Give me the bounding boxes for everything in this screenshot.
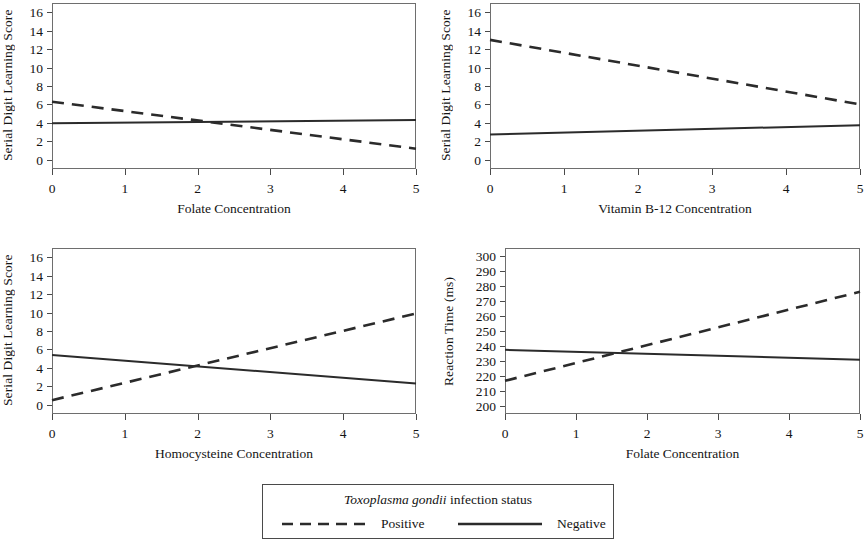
x-tick-label: 1	[556, 427, 596, 441]
y-tick-mark	[47, 257, 52, 258]
y-tick-label: 250	[462, 325, 496, 339]
x-tick-mark	[786, 169, 787, 175]
legend-title-species: Toxoplasma gondii	[344, 492, 447, 507]
y-tick-mark	[47, 331, 52, 332]
x-axis-title: Vitamin B-12 Concentration	[490, 201, 860, 217]
y-tick-mark	[47, 276, 52, 277]
x-tick-label: 5	[840, 182, 866, 196]
x-tick-label: 0	[485, 427, 525, 441]
legend-swatch-solid-icon	[457, 518, 543, 530]
y-tick-label: 10	[459, 62, 481, 76]
y-tick-mark	[485, 31, 490, 32]
y-tick-label: 2	[21, 380, 43, 394]
x-tick-label: 1	[105, 182, 145, 196]
y-tick-mark	[47, 368, 52, 369]
y-tick-label: 290	[462, 265, 496, 279]
y-tick-mark	[485, 49, 490, 50]
y-tick-mark	[485, 12, 490, 13]
y-tick-mark	[500, 301, 505, 302]
y-tick-label: 16	[459, 6, 481, 20]
y-tick-label: 2	[21, 135, 43, 149]
x-tick-mark	[125, 169, 126, 175]
x-tick-mark	[416, 414, 417, 420]
y-tick-label: 8	[21, 325, 43, 339]
x-tick-label: 2	[618, 182, 658, 196]
x-tick-label: 3	[692, 182, 732, 196]
y-tick-label: 300	[462, 250, 496, 264]
x-tick-mark	[343, 414, 344, 420]
y-axis-title: Reaction Time (ms)	[441, 266, 457, 396]
y-tick-label: 14	[459, 25, 481, 39]
legend-label-negative: Negative	[557, 516, 606, 532]
y-tick-mark	[47, 104, 52, 105]
x-tick-mark	[125, 414, 126, 420]
x-tick-mark	[712, 169, 713, 175]
y-tick-label: 12	[21, 288, 43, 302]
x-tick-mark	[198, 414, 199, 420]
x-tick-label: 2	[627, 427, 667, 441]
series-line-negative	[52, 120, 416, 123]
y-tick-mark	[500, 286, 505, 287]
y-tick-label: 6	[21, 343, 43, 357]
y-tick-label: 8	[459, 80, 481, 94]
y-axis-title: Serial Digit Learning Score	[438, 11, 454, 161]
y-tick-mark	[500, 316, 505, 317]
x-tick-mark	[52, 414, 53, 420]
y-tick-label: 0	[21, 399, 43, 413]
y-tick-label: 210	[462, 385, 496, 399]
x-tick-mark	[490, 169, 491, 175]
y-tick-label: 12	[459, 43, 481, 57]
series-line-positive	[505, 292, 860, 381]
x-tick-mark	[505, 414, 506, 420]
x-tick-mark	[638, 169, 639, 175]
y-tick-mark	[47, 349, 52, 350]
legend-label-positive: Positive	[381, 516, 425, 532]
x-tick-label: 2	[178, 427, 218, 441]
y-tick-label: 240	[462, 340, 496, 354]
y-tick-mark	[485, 123, 490, 124]
y-tick-label: 12	[21, 43, 43, 57]
legend-item-positive: Positive	[281, 516, 425, 532]
x-tick-mark	[270, 414, 271, 420]
y-tick-mark	[500, 376, 505, 377]
y-tick-mark	[500, 391, 505, 392]
y-tick-mark	[47, 123, 52, 124]
x-axis-title: Folate Concentration	[52, 201, 416, 217]
y-axis-title: Serial Digit Learning Score	[0, 11, 16, 161]
y-tick-mark	[500, 256, 505, 257]
y-tick-mark	[47, 31, 52, 32]
y-tick-label: 14	[21, 270, 43, 284]
y-tick-label: 10	[21, 62, 43, 76]
x-tick-mark	[718, 414, 719, 420]
y-tick-mark	[485, 68, 490, 69]
x-tick-label: 0	[32, 182, 72, 196]
x-tick-label: 4	[323, 427, 363, 441]
y-tick-label: 4	[21, 117, 43, 131]
y-tick-mark	[47, 68, 52, 69]
y-tick-label: 280	[462, 280, 496, 294]
x-tick-label: 3	[698, 427, 738, 441]
x-tick-label: 0	[32, 427, 72, 441]
chart-panel-folate-reactiontime: 200210220230240250260270280290300Reactio…	[430, 245, 866, 490]
x-tick-mark	[860, 169, 861, 175]
y-tick-mark	[47, 294, 52, 295]
chart-panel-vitaminb12-sdl: 0246810121416Serial Digit Learning Score…	[430, 0, 866, 245]
y-tick-mark	[500, 271, 505, 272]
y-tick-label: 14	[21, 25, 43, 39]
x-tick-label: 3	[250, 182, 290, 196]
y-tick-mark	[500, 406, 505, 407]
y-tick-label: 16	[21, 251, 43, 265]
legend-title-suffix: infection status	[447, 492, 532, 507]
y-axis-title: Serial Digit Learning Score	[0, 256, 16, 406]
series-line-positive	[490, 40, 860, 105]
x-tick-mark	[576, 414, 577, 420]
y-tick-label: 270	[462, 295, 496, 309]
y-tick-mark	[485, 86, 490, 87]
y-tick-label: 4	[459, 117, 481, 131]
y-tick-mark	[47, 386, 52, 387]
y-tick-mark	[47, 12, 52, 13]
x-tick-label: 2	[178, 182, 218, 196]
legend-title: Toxoplasma gondii infection status	[263, 492, 613, 508]
x-tick-label: 4	[769, 427, 809, 441]
x-tick-mark	[343, 169, 344, 175]
